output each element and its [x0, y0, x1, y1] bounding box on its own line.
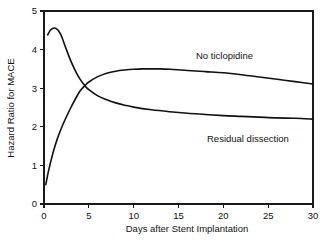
x-tick-label-5: 5 [86, 210, 91, 221]
series-label-residual-dissection: Residual dissection [207, 133, 289, 144]
plot-area-border [44, 11, 313, 204]
chart-canvas: 012345 051015202530 Days after Stent Imp… [0, 0, 329, 248]
x-axis-ticks [44, 204, 313, 208]
y-axis-title: Hazard Ratio for MACE [5, 58, 16, 157]
data-series-group [46, 28, 313, 185]
x-axis-title: Days after Stent Implantation [126, 223, 249, 234]
y-tick-label-0: 0 [32, 198, 37, 209]
y-tick-label-5: 5 [32, 5, 37, 16]
y-tick-label-2: 2 [32, 121, 37, 132]
y-axis-tick-labels: 012345 [32, 5, 37, 209]
x-tick-label-0: 0 [41, 210, 46, 221]
x-tick-label-20: 20 [218, 210, 229, 221]
x-tick-label-30: 30 [308, 210, 319, 221]
x-tick-label-10: 10 [128, 210, 139, 221]
series-label-no-ticlopidine: No ticlopidine [196, 50, 253, 61]
hazard-ratio-chart-figure: 012345 051015202530 Days after Stent Imp… [0, 0, 329, 248]
curve-residual-dissection [48, 28, 313, 119]
x-tick-label-25: 25 [263, 210, 274, 221]
x-axis-tick-labels: 051015202530 [41, 210, 318, 221]
y-tick-label-1: 1 [32, 160, 37, 171]
y-tick-label-3: 3 [32, 83, 37, 94]
y-axis-ticks [40, 11, 44, 204]
y-tick-label-4: 4 [32, 44, 37, 55]
plot-frame [44, 11, 313, 204]
x-tick-label-15: 15 [173, 210, 184, 221]
